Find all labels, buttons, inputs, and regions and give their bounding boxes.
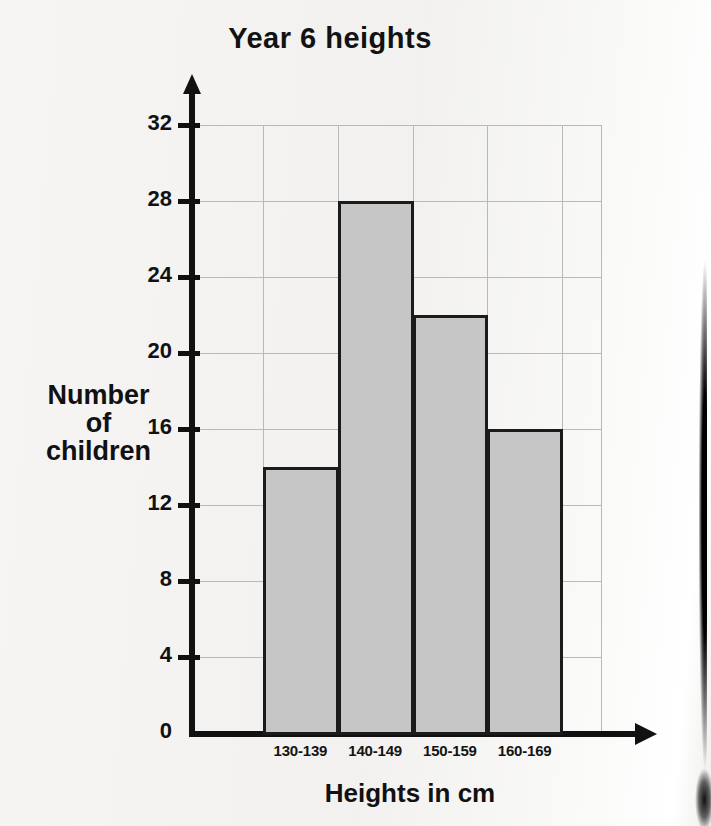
scanned-page-corner-shadow	[689, 760, 711, 826]
y-axis-tick-label: 4	[112, 642, 172, 668]
y-axis-tick	[178, 275, 200, 280]
y-axis-tick	[178, 655, 200, 660]
bar-130-139	[263, 467, 339, 735]
gridline-horizontal	[195, 125, 601, 126]
y-axis-tick-label: 12	[112, 490, 172, 516]
bar-160-169	[487, 429, 563, 735]
bar-140-149	[338, 201, 414, 735]
y-axis-tick-label: 32	[112, 110, 172, 136]
page-background: Year 6 heights Number of children Height…	[0, 0, 711, 826]
y-axis-tick	[178, 579, 200, 584]
y-axis-title-line-1: Number	[16, 382, 181, 410]
y-axis-tick	[178, 199, 200, 204]
gridline-vertical	[601, 125, 602, 733]
y-axis-tick-label: 24	[112, 262, 172, 288]
y-axis-tick	[178, 351, 200, 356]
y-axis-tick-label: 0	[112, 718, 172, 744]
x-axis-arrow-icon	[635, 723, 657, 745]
y-axis-tick-label: 8	[112, 566, 172, 592]
y-axis-tick	[178, 503, 200, 508]
y-axis-tick	[178, 427, 200, 432]
bar-150-159	[413, 315, 489, 735]
y-axis-tick-label: 16	[112, 414, 172, 440]
y-axis-title-line-3: children	[16, 438, 181, 466]
y-axis-tick-label: 28	[112, 186, 172, 212]
chart-title: Year 6 heights	[0, 22, 660, 55]
y-axis-tick	[178, 123, 200, 128]
y-axis-line	[189, 88, 195, 736]
y-axis-tick-label: 20	[112, 338, 172, 364]
scanned-page-edge-shadow	[693, 205, 707, 825]
x-axis-title: Heights in cm	[180, 778, 640, 809]
x-axis-category-label: 160-169	[479, 742, 570, 759]
